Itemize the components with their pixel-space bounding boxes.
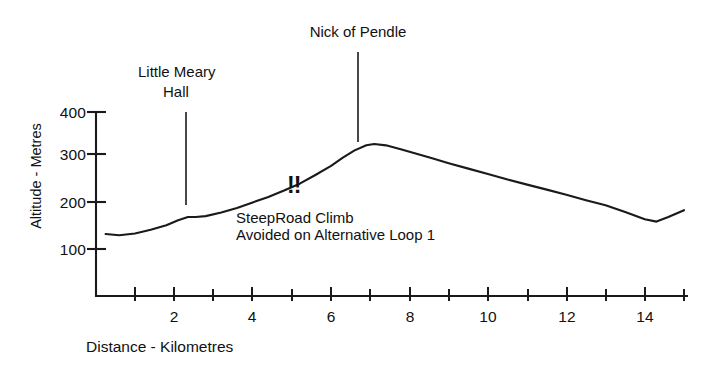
annotation-nick-of-pendle: Nick of Pendle	[278, 22, 438, 42]
x-tick-label-12: 12	[549, 307, 585, 327]
annotation-steep-road-climb-line1: SteepRoad Climb	[236, 209, 435, 226]
elevation-profile-chart: 400 300 200 100 2 4 6 8 10 12 14 Altitud…	[0, 0, 705, 386]
x-tick-label-2: 2	[156, 307, 192, 327]
annotation-steep-road-climb-line2: Avoided on Alternative Loop 1	[236, 226, 435, 243]
x-tick-label-8: 8	[392, 307, 428, 327]
chart-canvas	[0, 0, 705, 386]
y-tick-label-100: 100	[40, 240, 86, 260]
y-tick-label-300: 300	[40, 145, 86, 165]
y-axis-title: Altitude - Metres	[28, 96, 44, 256]
x-tick-label-6: 6	[313, 307, 349, 327]
annotation-warning-marks: !!	[287, 172, 300, 199]
x-axis-ticks	[135, 287, 684, 301]
annotation-steep-road-climb: SteepRoad Climb Avoided on Alternative L…	[236, 209, 435, 243]
x-tick-label-14: 14	[627, 307, 663, 327]
y-tick-label-200: 200	[40, 193, 86, 213]
x-tick-label-4: 4	[234, 307, 270, 327]
y-tick-label-400: 400	[40, 103, 86, 123]
annotation-little-meary-hall-line1: Little Meary	[138, 62, 238, 82]
x-tick-label-10: 10	[470, 307, 506, 327]
annotation-little-meary-hall-line2: Hall	[163, 82, 243, 102]
x-axis-title: Distance - Kilometres	[86, 338, 233, 356]
